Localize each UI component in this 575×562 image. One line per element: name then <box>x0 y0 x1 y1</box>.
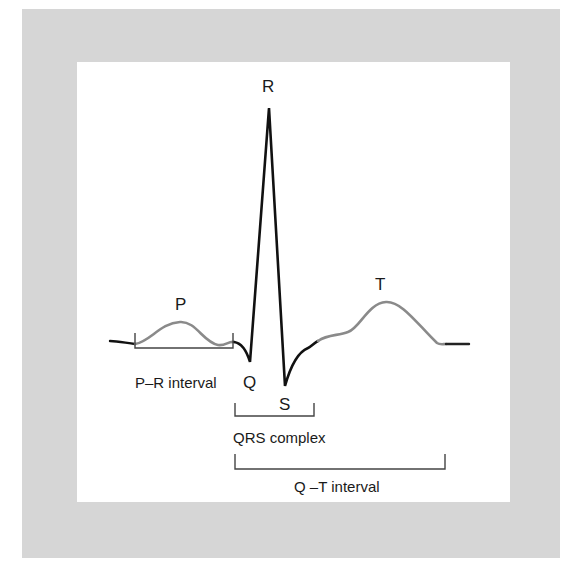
p-wave <box>135 322 234 345</box>
s-wave-label: S <box>279 395 290 414</box>
t-wave-label: T <box>375 275 385 294</box>
qrs-complex-bracket <box>235 403 314 416</box>
qt-interval-label: Q –T interval <box>294 478 380 495</box>
ecg-diagram: P R T Q S P–R interval QRS complex Q –T … <box>0 0 575 562</box>
baseline-start <box>110 341 135 344</box>
qt-interval-bracket <box>235 454 445 469</box>
qrs-complex-label: QRS complex <box>233 429 326 446</box>
r-wave-label: R <box>262 77 274 96</box>
qrs-complex <box>234 108 318 386</box>
p-wave-label: P <box>175 295 186 314</box>
t-wave <box>318 302 446 344</box>
pr-interval-label: P–R interval <box>135 374 217 391</box>
q-wave-label: Q <box>243 373 256 392</box>
